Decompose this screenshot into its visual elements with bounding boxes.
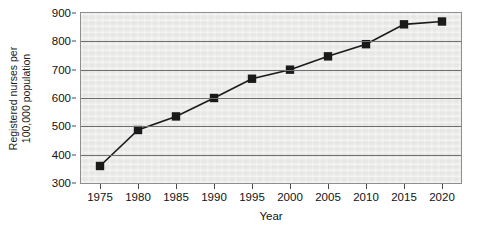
y-axis-tick-mark xyxy=(72,41,76,42)
x-axis-tick-label: 1975 xyxy=(87,191,113,203)
y-axis-tick-labels: 900800700600500400300 xyxy=(38,0,76,196)
y-axis-title: Registered nurses per 100,000 population xyxy=(0,0,40,196)
y-axis-tick-mark xyxy=(72,126,76,127)
x-axis-tick-mark xyxy=(100,184,101,189)
x-axis-tick-label: 2015 xyxy=(391,191,417,203)
y-axis-tick-mark xyxy=(72,154,76,155)
gridline xyxy=(81,126,461,127)
y-axis-tick-label: 500 xyxy=(52,120,71,132)
x-axis-tick-mark xyxy=(252,184,253,189)
y-axis-title-line-1: Registered nurses per xyxy=(8,46,21,149)
y-axis-tick-label: 700 xyxy=(52,64,71,76)
data-point-marker xyxy=(400,20,408,28)
gridline xyxy=(81,98,461,99)
y-axis-title-line-2: 100,000 population xyxy=(20,46,33,149)
x-axis-tick-mark xyxy=(404,184,405,189)
x-axis-tick-label: 1980 xyxy=(125,191,151,203)
x-axis-tick-mark xyxy=(176,184,177,189)
x-axis-tick-label: 2000 xyxy=(277,191,303,203)
x-axis-tick-label: 1990 xyxy=(201,191,227,203)
y-axis-tick-label: 600 xyxy=(52,92,71,104)
x-axis-tick-mark xyxy=(366,184,367,189)
x-axis-tick-label: 1985 xyxy=(163,191,189,203)
x-axis-tick-mark xyxy=(290,184,291,189)
x-axis-tick-label: 2010 xyxy=(353,191,379,203)
gridline xyxy=(81,155,461,156)
y-axis-tick-label: 900 xyxy=(52,7,71,19)
gridline xyxy=(81,70,461,71)
y-axis-tick-mark xyxy=(72,13,76,14)
x-axis-tick-mark xyxy=(138,184,139,189)
x-axis-tick-label: 2020 xyxy=(429,191,455,203)
data-point-marker xyxy=(324,52,332,60)
series-line xyxy=(100,22,442,167)
y-axis-tick-label: 800 xyxy=(52,35,71,47)
x-axis-ticks xyxy=(80,184,462,190)
x-axis-tick-mark xyxy=(442,184,443,189)
data-point-marker xyxy=(172,112,180,120)
x-axis-tick-label: 2005 xyxy=(315,191,341,203)
gridline xyxy=(81,41,461,42)
x-axis-tick-labels: 1975198019851990199520002005201020152020 xyxy=(80,191,462,207)
line-chart: Registered nurses per 100,000 population… xyxy=(0,0,490,233)
y-axis-tick-label: 300 xyxy=(52,177,71,189)
y-axis-tick-mark xyxy=(72,183,76,184)
x-axis-tick-mark xyxy=(328,184,329,189)
x-axis-title: Year xyxy=(80,210,462,222)
x-axis-tick-mark xyxy=(214,184,215,189)
y-axis-tick-mark xyxy=(72,69,76,70)
data-point-marker xyxy=(96,162,104,170)
plot-area xyxy=(80,12,462,184)
data-point-marker xyxy=(438,17,446,25)
y-axis-tick-mark xyxy=(72,98,76,99)
x-axis-tick-label: 1995 xyxy=(239,191,265,203)
data-point-marker xyxy=(248,75,256,83)
y-axis-tick-label: 400 xyxy=(52,149,71,161)
